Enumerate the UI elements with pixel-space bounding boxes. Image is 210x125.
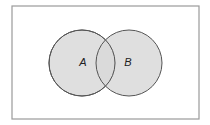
set-circles (49, 30, 162, 96)
venn-diagram: A B (0, 0, 210, 125)
set-b-label: B (124, 56, 131, 68)
set-a-label: A (78, 56, 86, 68)
